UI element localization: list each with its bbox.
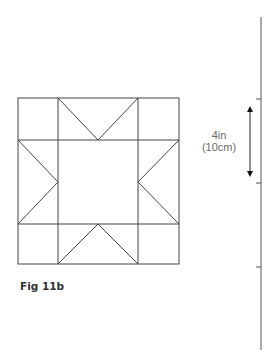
star-point-right xyxy=(138,140,179,224)
figure-caption: Fig 11b xyxy=(20,280,64,292)
star-block xyxy=(18,98,179,264)
arrow-down-icon xyxy=(247,171,253,177)
star-point-top xyxy=(58,98,138,140)
block-outline xyxy=(18,98,179,264)
measure-label-inches: 4in xyxy=(194,129,244,141)
measure-arrow xyxy=(247,106,253,177)
quilt-diagram xyxy=(0,0,277,358)
star-point-bottom xyxy=(58,224,138,264)
star-point-left xyxy=(18,140,58,224)
ruler xyxy=(256,17,261,350)
measure-label-cm: (10cm) xyxy=(194,141,244,153)
arrow-up-icon xyxy=(247,106,253,112)
